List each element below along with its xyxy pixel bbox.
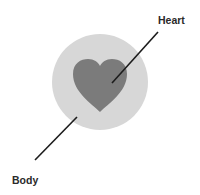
body-leader-line: [35, 117, 77, 160]
body-label: Body: [12, 174, 38, 186]
heart-label: Heart: [158, 14, 185, 26]
body-heart-diagram: Heart Body: [0, 0, 200, 195]
